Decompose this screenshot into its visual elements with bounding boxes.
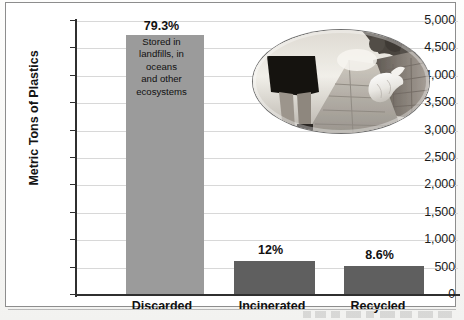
chart-figure: 5,000 4,500 4,000 3,500 3,000 2,500 2,00…: [0, 0, 464, 320]
bar-value-incinerated: 12%: [228, 243, 313, 257]
y-tick-label: 2,500: [397, 150, 455, 164]
y-tick-mark: [70, 294, 77, 295]
bar-value-discarded: 79.3%: [119, 19, 204, 33]
page-bleed-text: [300, 311, 460, 318]
x-label-discarded: Discarded: [112, 299, 212, 313]
y-tick-mark: [70, 212, 77, 213]
y-tick-mark: [70, 20, 77, 21]
y-tick-label: 5,000: [397, 13, 455, 27]
y-axis-title: Metric Tons of Plastics: [27, 28, 41, 208]
bar-value-recycled: 8.6%: [337, 248, 422, 262]
y-tick-label: 3,000: [397, 123, 455, 137]
bar-incinerated: [234, 261, 315, 295]
y-tick-mark: [70, 157, 77, 158]
y-tick-mark: [70, 130, 77, 131]
bar-annotation-discarded: Stored in landfills, in oceans and other…: [119, 36, 204, 98]
y-tick-mark: [70, 267, 77, 268]
y-tick-label: 1,000: [397, 232, 455, 246]
y-tick-label: 1,500: [397, 205, 455, 219]
y-tick-label: 2,000: [397, 177, 455, 191]
y-tick-mark: [70, 75, 77, 76]
y-tick-mark: [70, 47, 77, 48]
page-rule: [8, 309, 456, 310]
y-tick-mark: [70, 239, 77, 240]
y-tick-mark: [70, 102, 77, 103]
plastic-bag-sidewalk-photo: [253, 30, 429, 133]
y-tick-mark: [70, 184, 77, 185]
y-axis-line: [75, 19, 77, 297]
